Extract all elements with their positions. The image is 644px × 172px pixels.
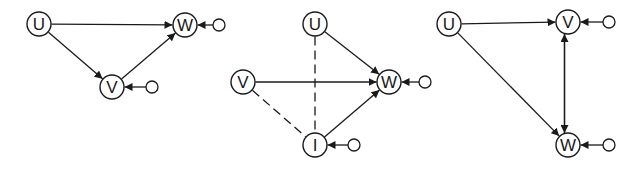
node-I: I	[303, 133, 327, 157]
exogenous-source-node-V	[146, 81, 158, 93]
exogenous-source-node-I	[348, 139, 360, 151]
node-U: U	[27, 12, 51, 36]
exogenous-source-node-W	[603, 139, 615, 151]
diagram-2: UVWI	[231, 12, 431, 157]
node-V: V	[556, 10, 580, 34]
edge-V-to-I-dashed	[252, 90, 305, 137]
node-label: V	[237, 73, 249, 92]
exogenous-source-node-W	[419, 76, 431, 88]
node-W: W	[377, 70, 401, 94]
node-W: W	[173, 13, 197, 37]
node-V: V	[100, 75, 124, 99]
node-V: V	[231, 70, 255, 94]
causal-diagrams-canvas: UWV UVWI UVW	[0, 0, 644, 172]
diagram-1: UWV	[27, 12, 225, 99]
diagram-3: UVW	[437, 10, 615, 157]
node-label: W	[177, 16, 193, 35]
node-label: V	[562, 13, 574, 32]
node-W: W	[556, 133, 580, 157]
edge-U-to-V	[461, 22, 555, 24]
exogenous-source-node-V	[603, 16, 615, 28]
node-label: U	[309, 15, 321, 34]
edge-U-to-W	[458, 33, 559, 136]
edge-V-to-W	[122, 33, 176, 79]
edge-U-to-W	[51, 24, 172, 25]
node-U: U	[437, 12, 461, 36]
node-label: W	[381, 73, 397, 92]
exogenous-source-node-W	[213, 19, 225, 31]
node-U: U	[303, 12, 327, 36]
node-label: U	[33, 15, 45, 34]
node-label: I	[313, 136, 318, 155]
edge-U-to-W	[325, 32, 379, 75]
node-label: V	[106, 78, 118, 97]
edge-U-to-V	[48, 32, 102, 79]
node-label: U	[443, 15, 455, 34]
node-label: W	[560, 136, 576, 155]
edge-I-to-W	[325, 90, 380, 137]
